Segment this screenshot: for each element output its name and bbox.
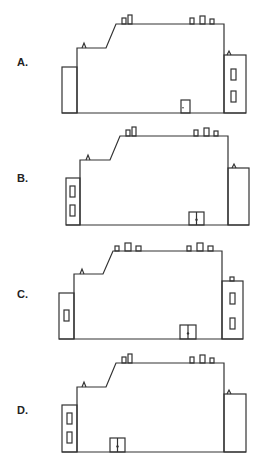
option-a[interactable]: A. — [0, 0, 263, 116]
option-b[interactable]: B. — [0, 116, 263, 232]
main-building — [77, 24, 224, 113]
window — [231, 69, 236, 80]
chimney — [115, 246, 119, 251]
chimney — [190, 357, 194, 363]
door-knob — [187, 332, 189, 334]
chimney — [210, 19, 214, 24]
right-annex — [224, 394, 246, 452]
chimney — [122, 357, 126, 363]
building-drawing — [0, 232, 263, 348]
window — [70, 205, 75, 216]
chimney — [200, 355, 205, 363]
chimney — [136, 246, 141, 251]
window — [230, 318, 235, 329]
door — [181, 100, 190, 113]
right-annex — [228, 168, 249, 225]
chimney — [122, 18, 126, 24]
left-annex — [62, 67, 77, 113]
chimney — [128, 354, 132, 363]
window — [67, 413, 72, 424]
chimney — [132, 127, 136, 136]
window — [231, 91, 236, 102]
roof-vent-icon — [86, 155, 90, 160]
building-drawing — [0, 348, 263, 464]
chimney — [128, 15, 132, 24]
window — [67, 432, 72, 443]
chimney — [200, 16, 205, 24]
roof-vent-icon — [82, 382, 86, 387]
chimney — [214, 131, 218, 136]
roof-vent-icon — [227, 390, 231, 394]
chimney — [194, 130, 198, 136]
building-drawing — [0, 0, 263, 116]
main-building — [80, 136, 228, 225]
chimney — [190, 18, 194, 24]
main-building — [77, 363, 224, 452]
window — [64, 310, 69, 321]
left-annex — [62, 405, 77, 452]
roof-vent-icon — [82, 43, 86, 48]
roof-vent-icon — [232, 164, 236, 168]
window — [230, 293, 235, 304]
roof-vent-icon — [80, 269, 84, 274]
chimney — [126, 130, 130, 136]
option-c[interactable]: C. — [0, 232, 263, 348]
chimney — [125, 243, 131, 251]
right-annex — [224, 55, 246, 113]
option-d[interactable]: D. — [0, 348, 263, 464]
left-annex — [66, 178, 80, 225]
building-drawing — [0, 116, 263, 232]
door-knob — [182, 107, 184, 109]
door-knob — [195, 219, 197, 221]
annex-chimney — [230, 277, 234, 281]
chimney — [187, 246, 191, 251]
window — [70, 186, 75, 197]
chimney — [208, 246, 213, 251]
chimney — [210, 358, 214, 363]
chimney — [204, 128, 209, 136]
right-annex — [222, 281, 243, 339]
main-building — [74, 251, 222, 339]
chimney — [197, 243, 203, 251]
door-knob — [116, 445, 118, 447]
left-annex — [59, 293, 74, 339]
